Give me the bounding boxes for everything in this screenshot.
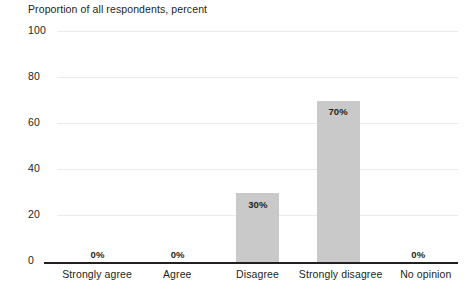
bar-strongly-disagree[interactable] — [317, 101, 360, 263]
x-axis-label-disagree: Disagree — [217, 268, 297, 280]
bar-value-label-strongly-agree: 0% — [76, 249, 119, 260]
plot-area: 0% 0% 30% 70% 0% — [57, 31, 458, 263]
x-axis-label-no-opinion: No opinion — [388, 268, 464, 280]
bar-group-no-opinion: 0% — [378, 31, 458, 263]
bar-value-label-agree: 0% — [156, 249, 199, 260]
x-axis-label-strongly-disagree: Strongly disagree — [294, 268, 388, 280]
bar-chart: Proportion of all respondents, percent 1… — [0, 0, 472, 293]
x-axis-label-strongly-agree: Strongly agree — [57, 268, 137, 280]
bar-value-label-disagree: 30% — [236, 199, 279, 210]
bar-group-disagree: 30% — [217, 31, 297, 263]
bar-value-label-no-opinion: 0% — [397, 249, 440, 260]
bar-group-strongly-agree: 0% — [57, 31, 137, 263]
bar-group-agree: 0% — [137, 31, 217, 263]
chart-title: Proportion of all respondents, percent — [28, 3, 207, 15]
bar-value-label-strongly-disagree: 70% — [317, 106, 360, 117]
x-axis-label-agree: Agree — [137, 268, 217, 280]
bar-group-strongly-disagree: 70% — [298, 31, 378, 263]
x-axis-line — [44, 262, 458, 264]
